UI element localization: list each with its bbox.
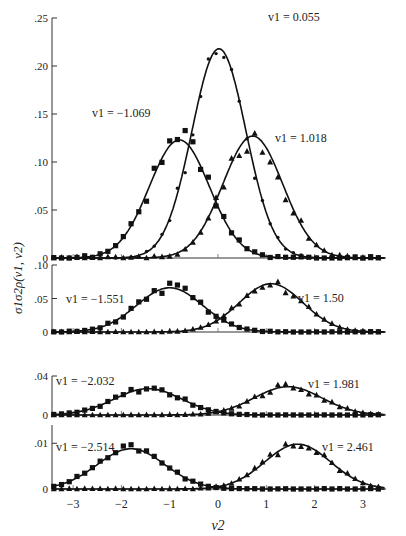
data-point <box>345 486 350 491</box>
x-axis-label: v2 <box>211 518 224 533</box>
data-point <box>306 412 311 417</box>
data-point <box>183 128 188 133</box>
data-point <box>136 448 141 453</box>
data-point <box>175 282 180 287</box>
data-point <box>260 486 265 491</box>
data-point <box>175 470 180 475</box>
data-point <box>229 411 234 416</box>
data-point <box>198 167 203 172</box>
data-point <box>238 100 241 103</box>
data-point <box>229 321 234 326</box>
data-point <box>105 249 110 254</box>
data-point <box>252 130 258 136</box>
data-point <box>306 329 311 334</box>
data-point <box>144 448 149 453</box>
y-tick-label: .25 <box>34 12 48 24</box>
data-point <box>283 441 289 447</box>
data-point <box>144 199 149 204</box>
data-point <box>298 329 303 334</box>
data-point <box>337 252 343 258</box>
x-tick-label: 1 <box>263 497 269 511</box>
data-point <box>190 403 195 408</box>
data-point <box>337 329 342 334</box>
series-label: v1 = −2.514 <box>56 440 115 454</box>
data-point <box>128 221 133 226</box>
data-point <box>329 486 334 491</box>
data-point <box>206 310 211 315</box>
data-point <box>206 175 211 180</box>
data-point <box>221 318 226 323</box>
data-point <box>159 160 164 165</box>
data-point <box>128 306 133 311</box>
data-point <box>283 255 288 260</box>
data-point <box>329 412 334 417</box>
data-point <box>222 56 225 59</box>
data-point <box>159 460 164 465</box>
panel-3: 0.04v1 = −2.032v1 = 1.981 <box>34 370 386 421</box>
y-tick-label: .20 <box>34 60 48 72</box>
x-tick-label: 0 <box>215 497 221 511</box>
data-point <box>322 412 327 417</box>
data-point <box>128 387 133 392</box>
data-point <box>275 486 280 491</box>
data-point <box>144 386 149 391</box>
data-point <box>252 486 257 491</box>
y-tick-label: .04 <box>34 370 48 382</box>
data-point <box>167 281 172 286</box>
data-point <box>198 229 204 235</box>
data-point <box>199 95 202 98</box>
y-tick-label: 0 <box>43 483 49 495</box>
data-point <box>298 412 303 417</box>
data-point <box>152 386 157 391</box>
series-label: v1 = 0.055 <box>268 10 320 24</box>
data-point <box>322 329 327 334</box>
data-point <box>314 412 319 417</box>
data-point <box>160 233 163 236</box>
data-point <box>190 139 195 144</box>
data-point <box>260 412 265 417</box>
data-point <box>98 459 103 464</box>
data-point <box>167 465 172 470</box>
y-tick-label: .15 <box>34 108 48 120</box>
data-point <box>323 256 326 259</box>
data-point <box>252 328 257 333</box>
data-point <box>283 412 288 417</box>
data-point <box>152 166 157 171</box>
data-point <box>244 486 249 491</box>
x-tick-label: −1 <box>163 497 176 511</box>
data-point <box>252 249 257 254</box>
series-label: v1 = −1.069 <box>92 106 151 120</box>
data-point <box>268 412 273 417</box>
fit-curve <box>51 49 384 258</box>
data-point <box>183 286 188 291</box>
data-point <box>275 254 280 259</box>
data-point <box>105 455 110 460</box>
data-point <box>229 486 234 491</box>
data-point <box>353 486 358 491</box>
data-point <box>276 236 279 239</box>
data-point <box>176 187 179 190</box>
data-point <box>152 288 157 293</box>
data-point <box>291 412 296 417</box>
data-point <box>113 319 118 324</box>
chart-panels: 0.05.10.15.20.25v1 = −1.069v1 = 0.055v1 … <box>34 10 386 495</box>
data-point <box>291 255 296 260</box>
data-point <box>74 474 79 479</box>
series-v1-1-018: v1 = 1.018 <box>51 130 385 260</box>
series-label: v1 = 2.461 <box>322 440 374 454</box>
data-point <box>291 329 296 334</box>
data-point <box>314 329 319 334</box>
chart-figure: 0.05.10.15.20.25v1 = −1.069v1 = 0.055v1 … <box>0 0 406 536</box>
x-tick-label: −3 <box>67 497 80 511</box>
data-point <box>98 404 103 409</box>
series-v1-0-055: v1 = 0.055 <box>51 10 384 260</box>
data-point <box>244 246 249 251</box>
data-point <box>136 389 141 394</box>
data-point <box>237 237 242 242</box>
y-tick-label: .10 <box>34 156 48 168</box>
data-point <box>345 412 350 417</box>
data-point <box>159 387 164 392</box>
series-label: v1 = 1.50 <box>298 291 344 305</box>
data-point <box>261 199 264 202</box>
data-point <box>253 177 256 180</box>
